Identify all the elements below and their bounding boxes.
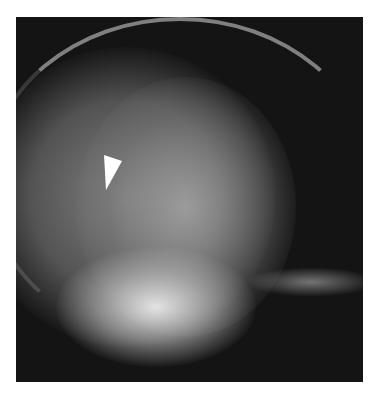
skull-radiograph — [16, 17, 363, 382]
arrowhead-icon — [16, 17, 363, 382]
